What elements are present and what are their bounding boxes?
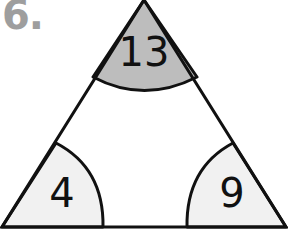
bottom-left-angle-label: 4 xyxy=(49,170,74,216)
triangle-diagram: 13 4 9 xyxy=(0,0,288,232)
top-angle-label: 13 xyxy=(119,29,170,75)
bottom-right-angle-label: 9 xyxy=(219,170,244,216)
